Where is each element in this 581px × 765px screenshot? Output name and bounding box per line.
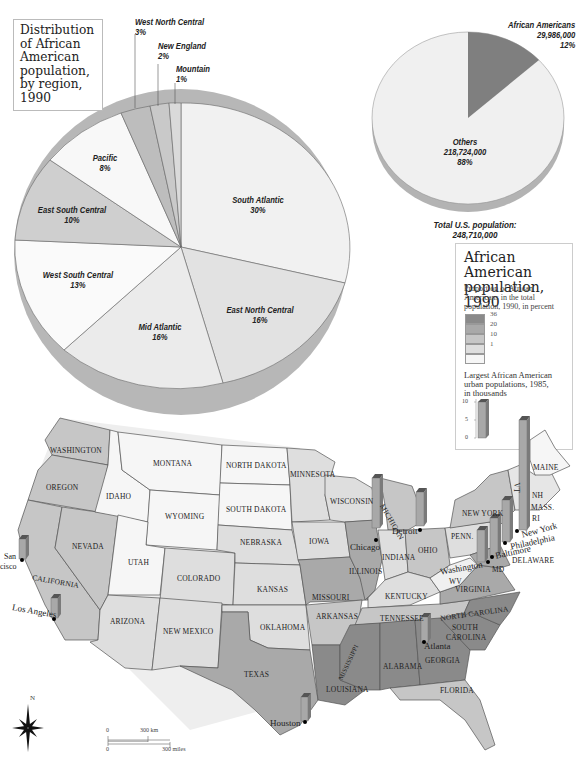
aa-value: 29,986,000 [499, 30, 576, 40]
slice-pct: 16% [218, 315, 303, 325]
state-label-virginia: VIRGINIA [455, 585, 491, 594]
state-label-south-carolina: SOUTH [452, 623, 478, 632]
caption-line: Proportion of African [464, 284, 554, 293]
city-label-san-francisco: San [4, 552, 16, 561]
scale-zero-bottom: 0 [106, 746, 109, 752]
state-label-north-dakota: NORTH DAKOTA [226, 461, 287, 470]
slice-name: West North Central [135, 17, 204, 27]
state-label-delaware: DELAWARE [512, 556, 554, 565]
label-east-north-central: East North Central 16% [218, 305, 303, 325]
title-line: population, [20, 65, 96, 79]
compass-rose-icon [12, 704, 44, 752]
bar-detroit [416, 492, 424, 526]
bar-new-york [519, 420, 527, 530]
state-alabama [380, 620, 420, 690]
slice-name: Mountain [176, 64, 210, 74]
slice-name: East South Central [34, 205, 111, 215]
label-south-atlantic: South Atlantic 30% [224, 195, 292, 215]
city-label-chicago: Chicago [350, 542, 380, 552]
bar-philadelphia [502, 500, 510, 542]
state-label-florida: FLORIDA [440, 686, 474, 695]
slice-pct: 13% [36, 280, 121, 290]
state-label-south-carolina: CAROLINA [446, 633, 486, 642]
compass-north-label: N [30, 694, 35, 702]
state-label-south-dakota: SOUTH DAKOTA [226, 505, 286, 514]
state-label-utah: UTAH [128, 558, 149, 567]
state-label-minnesota: MINNESOTA [290, 470, 335, 479]
state-label-nebraska: NEBRASKA [240, 538, 282, 547]
slice-name: Mid Atlantic [126, 322, 194, 332]
title-line: by region, [20, 78, 96, 92]
label-pacific: Pacific 8% [84, 153, 127, 173]
slice-pct: 10% [34, 215, 111, 225]
state-label-ri: RI [532, 514, 540, 523]
state-label-illinois: ILLINOIS [349, 567, 382, 576]
label-mid-atlantic: Mid Atlantic 16% [126, 322, 194, 342]
state-label-arizona: ARIZONA [110, 617, 145, 626]
city-label-detroit: Detroit [392, 526, 418, 536]
state-label-md: MD [492, 565, 505, 574]
scale-bar [108, 736, 170, 748]
state-label-alabama: ALABAMA [383, 662, 422, 671]
slice-pct: 8% [84, 163, 127, 173]
legend-break: 1 [490, 340, 494, 348]
legend-break: 36 [490, 310, 497, 318]
slice-pct: 1% [176, 74, 210, 84]
label-new-england: New England 2% [158, 41, 206, 61]
label-west-south-central: West South Central 13% [36, 270, 121, 290]
state-label-iowa: IOWA [309, 537, 329, 546]
slice-pct: 2% [158, 51, 206, 61]
legend-swatch-20 [465, 324, 485, 334]
caption-line: population, 1990, in percent [464, 302, 554, 311]
others-label: Others [435, 137, 495, 147]
state-label-wisconsin: WISCONSIN [330, 497, 373, 506]
state-label-wyoming: WYOMING [165, 512, 204, 521]
label-east-south-central: East South Central 10% [34, 205, 111, 225]
state-kansas [233, 563, 306, 605]
slice-name: New England [158, 41, 206, 51]
state-label-new-york: NEW YORK [462, 509, 503, 518]
scale-km-label: 300 km [140, 727, 158, 733]
state-label-montana: MONTANA [153, 459, 192, 468]
aa-pct: 12% [499, 40, 576, 50]
state-label-louisiana: LOUISIANA [326, 685, 369, 694]
label-others: Others 218,724,000 88% [435, 137, 495, 167]
slice-pct: 30% [224, 205, 292, 215]
bar-san-francisco [19, 539, 26, 559]
state-label-indiana: INDIANA [382, 553, 415, 562]
city-label-san-francisco: cisco [0, 562, 16, 571]
state-label-wv: WV [449, 577, 462, 586]
legend-swatch-10 [465, 334, 485, 344]
state-label-penn: PENN. [451, 532, 473, 541]
state-label-arkansas: ARKANSAS [316, 612, 358, 621]
state-label-nh: NH [532, 491, 543, 500]
state-label-texas: TEXAS [244, 670, 269, 679]
label-mountain: Mountain 1% [176, 64, 210, 84]
title-line: of African [20, 38, 96, 52]
state-label-missouri: MISSOURI [312, 593, 349, 602]
legend-break: 10 [490, 330, 497, 338]
state-label-new-mexico: NEW MEXICO [163, 627, 213, 636]
state-label-maine: MAINE [533, 463, 559, 472]
state-label-mass: MASS. [531, 503, 554, 512]
state-label-colorado: COLORADO [177, 574, 220, 583]
slice-name: South Atlantic [224, 195, 292, 205]
state-label-kentucky: KENTUCKY [385, 592, 428, 601]
slice-name: Pacific [84, 153, 127, 163]
title-line: 1990 [20, 92, 96, 106]
chart-title-box: Distribution of African American populat… [13, 19, 103, 111]
title-line: Distribution [20, 24, 96, 38]
legend-swatch-1 [465, 344, 485, 354]
others-value: 218,724,000 [435, 147, 495, 157]
slice-name: East North Central [218, 305, 303, 315]
legend-title-line: African American [464, 250, 574, 280]
state-label-tennessee: TENNESSEE [380, 614, 424, 623]
bar-washington [477, 530, 485, 562]
state-label-oregon: OREGON [46, 483, 78, 492]
state-label-idaho: IDAHO [106, 492, 131, 501]
city-label-atlanta: Atlanta [424, 641, 451, 651]
state-label-vt: VT [512, 483, 521, 493]
aa-label: African Americans [499, 20, 576, 30]
bar-houston [301, 697, 308, 721]
state-label-washington: WASHINGTON [50, 446, 102, 455]
